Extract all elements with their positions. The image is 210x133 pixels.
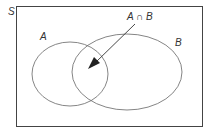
set-b-ellipse: [72, 34, 182, 110]
universe-label: S: [8, 7, 15, 17]
venn-diagram: [0, 0, 210, 133]
set-a-label: A: [40, 32, 47, 42]
set-b-label: B: [175, 38, 182, 48]
arrowhead-icon: [88, 57, 100, 69]
set-a-ellipse: [32, 42, 108, 106]
intersection-arrow-line: [96, 24, 135, 62]
intersection-label: A ∩ B: [127, 12, 153, 22]
